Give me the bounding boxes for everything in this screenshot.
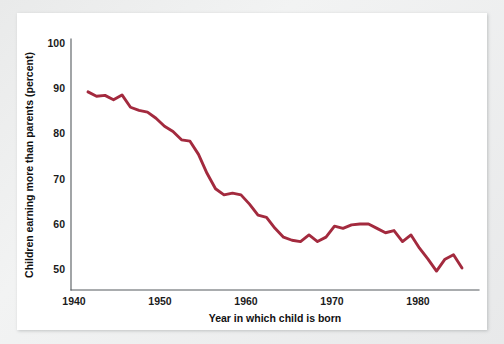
data-series-line [88,92,462,271]
x-tick-label: 1970 [320,295,344,307]
y-tick-labels: 100 90 80 70 60 50 [47,37,65,275]
figure-root: 100 90 80 70 60 50 1940 1950 1960 1970 1… [0,0,504,344]
x-tick-label: 1950 [148,295,172,307]
x-tick-labels: 1940 1950 1960 1970 1980 [62,295,430,307]
x-tick-label: 1980 [406,295,430,307]
y-axis-title: Children earning more than parents (perc… [23,52,35,278]
line-chart: 100 90 80 70 60 50 1940 1950 1960 1970 1… [17,13,487,330]
y-tick-label: 70 [53,173,65,185]
y-tick-label: 50 [53,263,65,275]
x-axis-title: Year in which child is born [209,312,341,324]
x-tick-label: 1940 [62,295,86,307]
y-tick-label: 100 [47,37,65,49]
y-tick-label: 80 [53,127,65,139]
chart-card: 100 90 80 70 60 50 1940 1950 1960 1970 1… [17,13,487,330]
x-tick-label: 1960 [234,295,258,307]
y-tick-label: 90 [53,82,65,94]
y-tick-label: 60 [53,218,65,230]
